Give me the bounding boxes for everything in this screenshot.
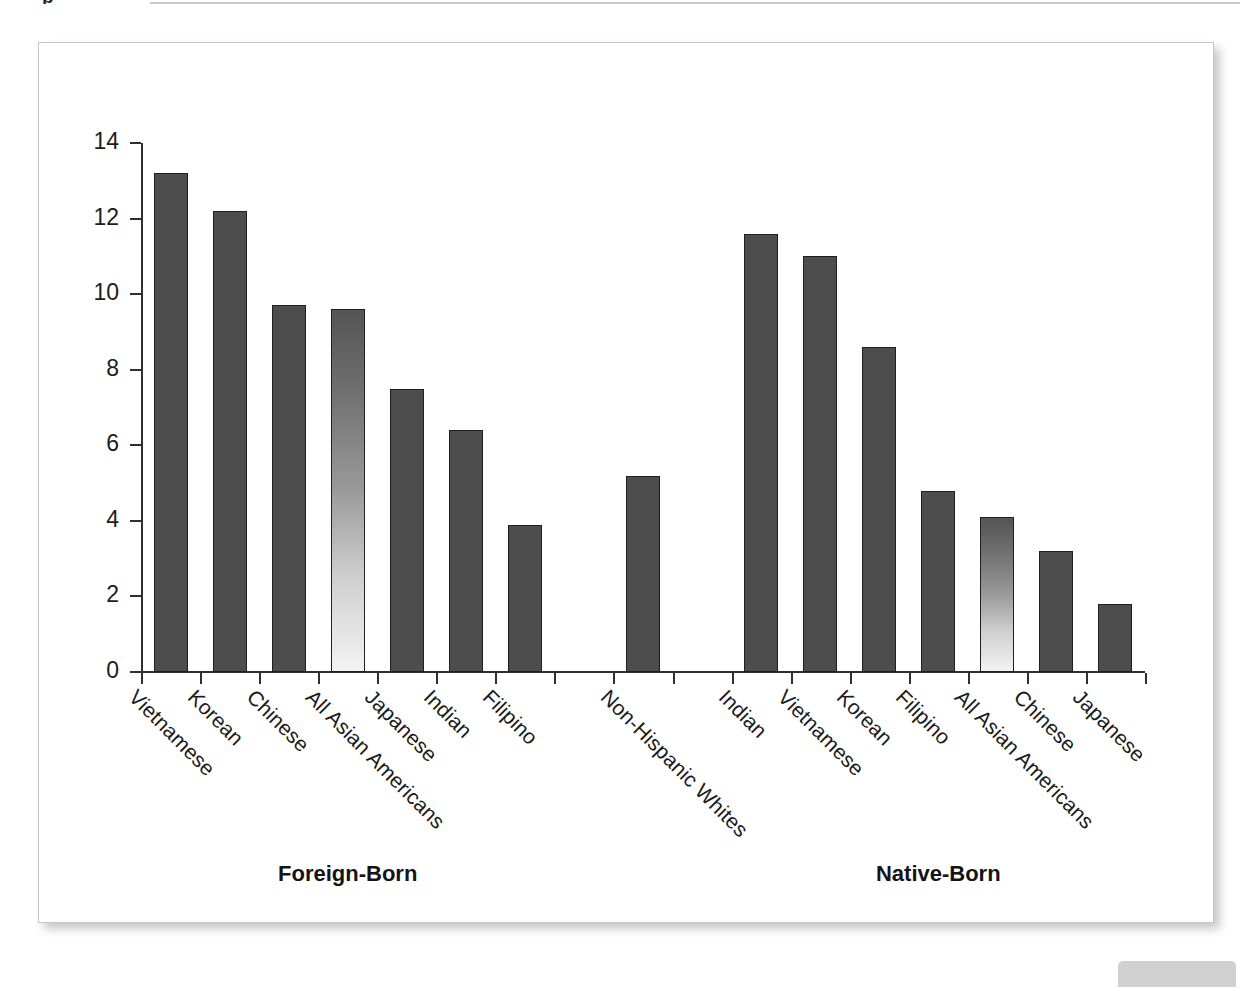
x-axis-tick-mark [673, 673, 675, 684]
figure-card: 02468101214 VietnameseKoreanChineseAll A… [38, 42, 1214, 923]
bar [390, 389, 424, 672]
y-axis-tick-mark [130, 671, 141, 673]
x-axis-tick-mark [318, 673, 320, 684]
y-axis-tick-label: 8 [106, 355, 119, 382]
bar [272, 305, 306, 672]
x-axis-tick-mark [1027, 673, 1029, 684]
y-axis-tick-label: 12 [93, 204, 119, 231]
bar [921, 491, 955, 672]
group-label: Foreign-Born [228, 861, 468, 887]
bar [1039, 551, 1073, 672]
bar [449, 430, 483, 672]
x-axis-label: Filipino [891, 685, 956, 750]
y-axis-tick-mark [130, 142, 141, 144]
y-axis-tick-mark [130, 520, 141, 522]
bars-layer [141, 143, 1145, 672]
x-axis-tick-mark [732, 673, 734, 684]
bar [508, 525, 542, 672]
y-axis-tick-label: 0 [106, 657, 119, 684]
bar [213, 211, 247, 672]
x-axis-label: Indian [714, 685, 772, 743]
x-axis-tick-mark [554, 673, 556, 684]
x-axis-tick-mark [436, 673, 438, 684]
y-axis-tick-label: 14 [93, 128, 119, 155]
x-axis-tick-mark [377, 673, 379, 684]
bar [626, 476, 660, 672]
x-axis-tick-mark [850, 673, 852, 684]
y-axis-tick-mark [130, 444, 141, 446]
x-axis-tick-mark [613, 673, 615, 684]
bar [744, 234, 778, 672]
bar [862, 347, 896, 672]
x-axis-tick-mark [968, 673, 970, 684]
x-axis-label: Filipino [478, 685, 543, 750]
y-axis-tick-label: 2 [106, 581, 119, 608]
x-axis-labels: VietnameseKoreanChineseAll Asian America… [141, 685, 1145, 875]
y-axis-tick-label: 4 [106, 506, 119, 533]
x-axis-tick-mark [495, 673, 497, 684]
x-axis-label: Japanese [1068, 685, 1150, 767]
y-axis-tick-mark [130, 218, 141, 220]
x-axis-tick-mark [200, 673, 202, 684]
x-axis-tick-mark [1086, 673, 1088, 684]
bar [1098, 604, 1132, 672]
x-axis-tick-mark [791, 673, 793, 684]
top-clipped-strip: p [0, 0, 1254, 14]
y-axis-tick-mark [130, 369, 141, 371]
x-axis-tick-mark [141, 673, 143, 684]
group-label: Native-Born [818, 861, 1058, 887]
y-axis-tick-label: 6 [106, 430, 119, 457]
corner-tab-chip [1118, 961, 1236, 987]
y-axis-tick-mark [130, 595, 141, 597]
x-axis-label: Indian [419, 685, 477, 743]
chart-plot-area: 02468101214 VietnameseKoreanChineseAll A… [39, 43, 1215, 924]
x-axis-tick-mark [259, 673, 261, 684]
bar [980, 517, 1014, 672]
x-axis-label: Chinese [242, 685, 314, 757]
bar [803, 256, 837, 672]
header-divider-rule [150, 2, 1240, 4]
y-axis-tick-label: 10 [93, 279, 119, 306]
clipped-title-fragment: p [42, 0, 54, 4]
x-axis-tick-mark [909, 673, 911, 684]
y-axis-tick-mark [130, 293, 141, 295]
x-axis-tick-mark [1145, 673, 1147, 684]
bar [154, 173, 188, 672]
bar [331, 309, 365, 672]
